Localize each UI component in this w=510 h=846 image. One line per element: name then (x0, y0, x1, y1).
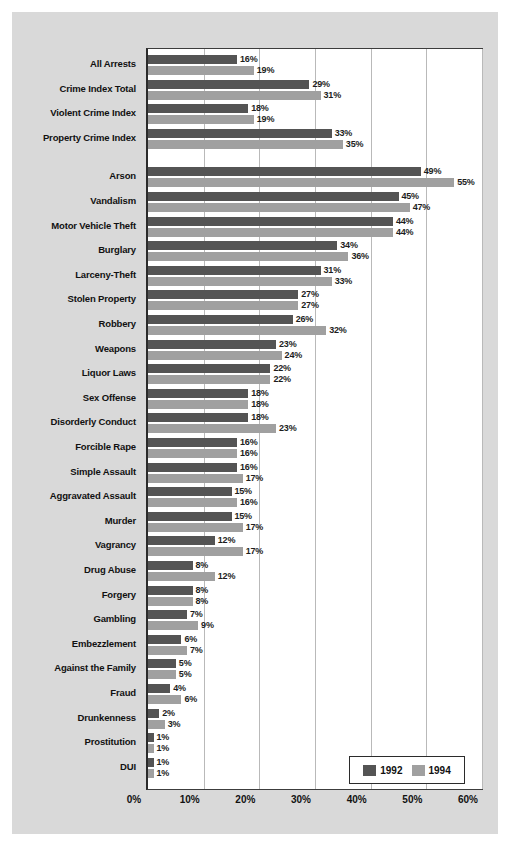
bar-1992 (148, 635, 181, 644)
bar-1994 (148, 597, 193, 606)
bar-value-label: 35% (346, 140, 363, 149)
category-label: Robbery (24, 319, 142, 329)
bar-value-label: 47% (413, 203, 430, 212)
bar-1992 (148, 290, 298, 299)
bar-value-label: 1% (157, 769, 170, 778)
bar-value-label: 27% (301, 290, 318, 299)
bar-value-label: 33% (335, 277, 352, 286)
plot-area: 16%19%29%31%18%19%33%35%49%55%45%47%44%4… (146, 48, 483, 790)
category-label: Crime Index Total (24, 84, 142, 94)
bar-1994 (148, 228, 393, 237)
x-tick-20: 20% (235, 794, 255, 805)
bar-value-label: 18% (251, 104, 268, 113)
bar-1994 (148, 140, 343, 149)
bar-row: 34%36% (148, 241, 482, 262)
x-tick-10: 10% (180, 794, 200, 805)
bar-row: 49%55% (148, 167, 482, 188)
bar-1992 (148, 389, 248, 398)
bar-1994 (148, 115, 254, 124)
category-label: Against the Family (24, 663, 142, 673)
bar-row: 2%3% (148, 709, 482, 730)
bar-1994 (148, 670, 176, 679)
bar-1992 (148, 55, 237, 64)
legend-item-1992: 1992 (363, 765, 402, 776)
bar-row: 15%17% (148, 512, 482, 533)
bar-value-label: 22% (273, 364, 290, 373)
bar-value-label: 8% (196, 586, 209, 595)
bar-row: 26%32% (148, 315, 482, 336)
bar-1994 (148, 449, 237, 458)
bar-1992 (148, 659, 176, 668)
bar-1992 (148, 610, 187, 619)
bar-value-label: 18% (251, 389, 268, 398)
bar-1994 (148, 646, 187, 655)
bar-1992 (148, 586, 193, 595)
bar-1994 (148, 621, 198, 630)
gridline-60 (482, 49, 483, 789)
bar-value-label: 27% (301, 301, 318, 310)
x-tick-40: 40% (347, 794, 367, 805)
bar-1992 (148, 340, 276, 349)
legend-swatch-1994 (412, 765, 425, 776)
bar-1992 (148, 266, 321, 275)
bar-1994 (148, 400, 248, 409)
bar-1992 (148, 241, 337, 250)
bar-row: 12%17% (148, 536, 482, 557)
legend-label-1992: 1992 (380, 765, 402, 776)
category-label: Vandalism (24, 196, 142, 206)
bar-row: 1%1% (148, 733, 482, 754)
category-label: Weapons (24, 344, 142, 354)
bar-1994 (148, 351, 282, 360)
bar-value-label: 16% (240, 449, 257, 458)
chart-page: All ArrestsCrime Index TotalViolent Crim… (0, 0, 510, 846)
bar-1992 (148, 217, 393, 226)
bar-1992 (148, 758, 154, 767)
bar-value-label: 6% (184, 635, 197, 644)
bar-value-label: 3% (168, 720, 181, 729)
bar-value-label: 12% (218, 536, 235, 545)
category-label: Prostitution (24, 737, 142, 747)
bar-1992 (148, 487, 232, 496)
bar-1994 (148, 91, 321, 100)
category-label: Stolen Property (24, 294, 142, 304)
bar-value-label: 15% (235, 512, 252, 521)
category-label: DUI (24, 762, 142, 772)
bar-row: 15%16% (148, 487, 482, 508)
bar-1994 (148, 66, 254, 75)
bar-row: 8%8% (148, 586, 482, 607)
bar-value-label: 6% (184, 695, 197, 704)
bar-value-label: 1% (157, 733, 170, 742)
bar-value-label: 17% (246, 474, 263, 483)
bar-row: 16%17% (148, 463, 482, 484)
bar-value-label: 16% (240, 498, 257, 507)
bar-value-label: 2% (162, 709, 175, 718)
bar-1994 (148, 498, 237, 507)
bar-value-label: 7% (190, 646, 203, 655)
bar-1992 (148, 438, 237, 447)
category-label: Violent Crime Index (24, 108, 142, 118)
bar-row: 27%27% (148, 290, 482, 311)
bar-value-label: 5% (179, 670, 192, 679)
category-label: Sex Offense (24, 393, 142, 403)
bar-1992 (148, 129, 332, 138)
bar-row: 29%31% (148, 80, 482, 101)
bar-1994 (148, 424, 276, 433)
bar-value-label: 4% (173, 684, 186, 693)
x-tick-60: 60% (458, 794, 478, 805)
bar-row: 22%22% (148, 364, 482, 385)
bar-row: 45%47% (148, 192, 482, 213)
bar-rows: 16%19%29%31%18%19%33%35%49%55%45%47%44%4… (148, 49, 482, 789)
category-axis-labels: All ArrestsCrime Index TotalViolent Crim… (24, 48, 142, 788)
bar-1994 (148, 326, 326, 335)
bar-1992 (148, 104, 248, 113)
category-label: Murder (24, 516, 142, 526)
bar-value-label: 19% (257, 115, 274, 124)
category-label: Forgery (24, 590, 142, 600)
bar-row: 5%5% (148, 659, 482, 680)
bar-1994 (148, 252, 348, 261)
bar-1994 (148, 720, 165, 729)
bar-value-label: 45% (402, 192, 419, 201)
category-label: Arson (24, 171, 142, 181)
bar-value-label: 55% (457, 178, 474, 187)
bar-row: 8%12% (148, 561, 482, 582)
